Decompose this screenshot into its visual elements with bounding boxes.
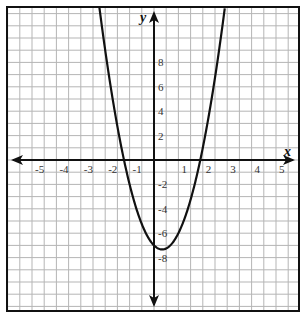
svg-text:-8: -8 — [158, 252, 168, 264]
svg-text:8: 8 — [158, 56, 164, 68]
graph: -5-4-3-2-1123458642-2-4-6-8 x y — [0, 0, 301, 321]
svg-text:4: 4 — [158, 105, 164, 117]
svg-text:-2: -2 — [158, 178, 167, 190]
svg-text:5: 5 — [279, 163, 285, 175]
svg-text:-5: -5 — [35, 163, 45, 175]
svg-text:-1: -1 — [133, 163, 142, 175]
svg-text:-4: -4 — [59, 163, 69, 175]
svg-text:-3: -3 — [84, 163, 94, 175]
svg-text:4: 4 — [255, 163, 261, 175]
svg-text:3: 3 — [230, 163, 236, 175]
svg-text:-6: -6 — [158, 227, 168, 239]
svg-text:6: 6 — [158, 81, 164, 93]
svg-text:-4: -4 — [158, 203, 168, 215]
svg-text:1: 1 — [181, 163, 187, 175]
svg-text:2: 2 — [158, 130, 164, 142]
svg-text:-2: -2 — [108, 163, 117, 175]
y-axis-label: y — [138, 10, 147, 25]
axes — [11, 11, 295, 307]
x-axis-label: x — [283, 144, 291, 159]
svg-text:2: 2 — [206, 163, 212, 175]
